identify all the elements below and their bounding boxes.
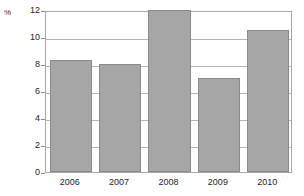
x-axis-tick-label: 2006 <box>45 177 94 187</box>
x-axis-tick-label: 2009 <box>193 177 242 187</box>
y-axis-tick-label: 2 <box>17 141 40 150</box>
y-axis-unit-label: % <box>4 8 11 17</box>
y-axis-tick-label: 10 <box>17 33 40 42</box>
y-axis-tick-label: 6 <box>17 87 40 96</box>
y-axis-tick-label: 8 <box>17 60 40 69</box>
y-axis-tick-text: 2 <box>17 141 40 150</box>
plot-area <box>45 11 292 173</box>
bar <box>50 60 92 172</box>
y-axis-tick-text: 12 <box>17 6 40 15</box>
y-axis-tick-label: 4 <box>17 114 40 123</box>
y-axis-tick-label: 12 <box>17 6 40 15</box>
bar <box>148 10 190 172</box>
y-axis-tick-text: 8 <box>17 60 40 69</box>
bar <box>99 64 141 172</box>
y-axis-tick-text: 4 <box>17 114 40 123</box>
bar <box>247 30 289 172</box>
x-axis-tick-label: 2007 <box>94 177 143 187</box>
x-axis-tick-label: 2008 <box>144 177 193 187</box>
y-axis-tick-text: 0 <box>17 168 40 177</box>
y-axis-tick-mark <box>41 173 45 174</box>
y-axis-tick-text: 10 <box>17 33 40 42</box>
y-axis-tick-text: 6 <box>17 87 40 96</box>
y-axis-tick-label: 0 <box>17 168 40 177</box>
bar <box>198 78 240 173</box>
x-axis-tick-label: 2010 <box>243 177 292 187</box>
bar-chart: % 024681012 20062007200820092010 <box>0 0 304 196</box>
